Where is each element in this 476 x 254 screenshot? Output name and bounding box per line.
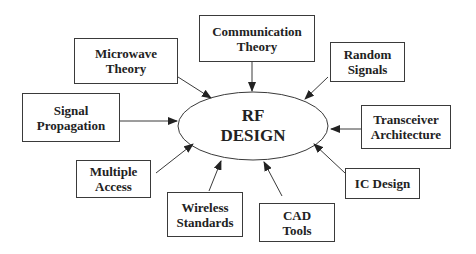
arrow-cad-tools <box>264 162 282 196</box>
node-label: Tools <box>282 223 311 238</box>
node-communication-theory: Communication Theory <box>199 15 315 62</box>
arrow-multiple-access <box>156 144 193 173</box>
node-label: Signal <box>54 103 89 118</box>
node-label: Propagation <box>37 118 105 133</box>
node-label: Signals <box>348 62 388 77</box>
node-label: Architecture <box>371 127 441 142</box>
center-line-1: RF <box>242 106 265 126</box>
arrow-microwave-theory <box>178 77 211 98</box>
arrow-random-signals <box>305 77 328 99</box>
node-label: Communication <box>212 24 302 39</box>
node-signal-propagation: Signal Propagation <box>22 93 120 142</box>
node-label: Multiple <box>90 164 138 179</box>
node-label: IC Design <box>355 176 410 191</box>
arrow-wireless-standards <box>209 161 221 191</box>
node-wireless-standards: Wireless Standards <box>167 192 243 237</box>
center-line-2: DESIGN <box>220 126 285 146</box>
node-random-signals: Random Signals <box>330 42 405 82</box>
node-multiple-access: Multiple Access <box>76 160 151 198</box>
node-label: CAD <box>283 208 311 223</box>
arrow-ic-design <box>314 144 345 173</box>
node-label: Standards <box>176 215 233 230</box>
node-microwave-theory: Microwave Theory <box>74 38 178 84</box>
node-label: Microwave <box>95 46 157 61</box>
node-label: Random <box>344 47 392 62</box>
node-label: Transceiver <box>373 112 438 127</box>
node-label: Theory <box>106 61 146 76</box>
node-label: Wireless <box>181 200 228 215</box>
rf-design-label: RF DESIGN <box>203 106 303 146</box>
node-ic-design: IC Design <box>345 168 420 199</box>
node-label: Access <box>95 179 132 194</box>
node-transceiver-architecture: Transceiver Architecture <box>361 105 451 149</box>
node-cad-tools: CAD Tools <box>259 203 335 242</box>
node-label: Theory <box>237 39 277 54</box>
